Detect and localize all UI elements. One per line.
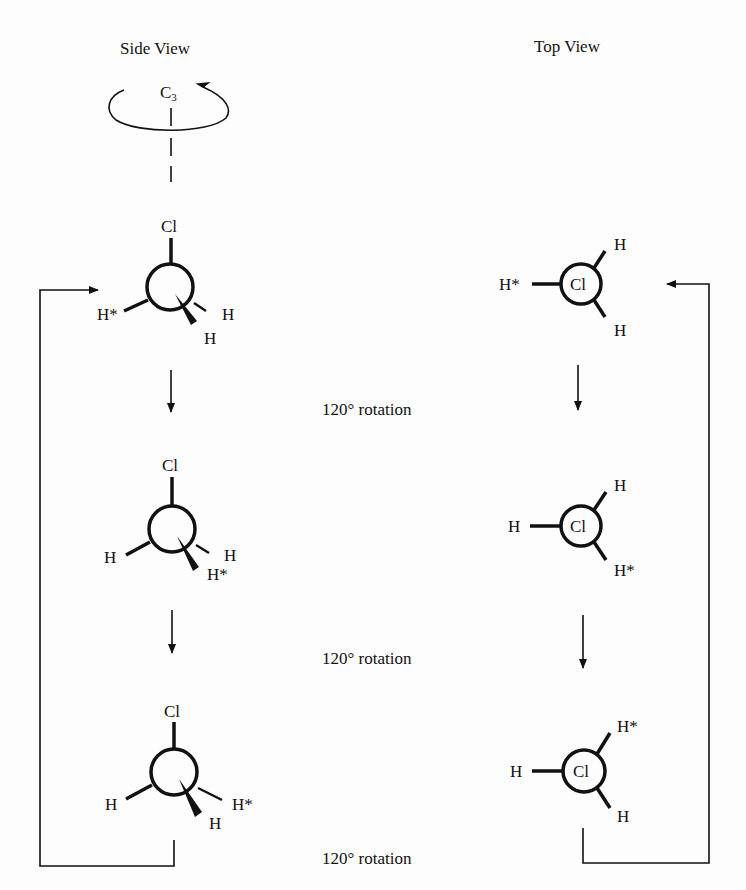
diagram-graphics [0, 0, 746, 890]
sv1-cl-label: Cl [161, 218, 177, 235]
sv3-bottom-label: H [209, 815, 221, 832]
tv2-center-label: Cl [570, 518, 586, 535]
side-view-heading: Side View [120, 40, 190, 57]
c3-axis-label: C3 [160, 84, 177, 103]
tv3-left-label: H [510, 763, 522, 780]
c3-rotation-diagram: Side View Top View C3 Cl H* H H Cl H H H… [0, 0, 746, 890]
sv2-bottom-label: H* [207, 566, 228, 583]
rotation-label-1: 120° rotation [322, 401, 411, 418]
c3-axis-letter: C [160, 83, 171, 102]
side-view-molecule-1 [124, 238, 206, 325]
top-view-molecule-1 [532, 251, 605, 317]
right-return-arrow-icon [583, 284, 709, 863]
sv3-left-label: H [105, 796, 117, 813]
tv1-lower-right-label: H [614, 322, 626, 339]
sv1-bottom-label: H [204, 330, 216, 347]
tv3-upper-right-label: H* [617, 718, 638, 735]
sv2-right-label: H [224, 547, 236, 564]
tv2-lower-right-label: H* [614, 562, 635, 579]
tv1-center-label: Cl [570, 276, 586, 293]
tv2-left-label: H [508, 518, 520, 535]
tv3-center-label: Cl [573, 763, 589, 780]
tv3-lower-right-label: H [617, 808, 629, 825]
sv3-right-label: H* [232, 796, 253, 813]
rotation-label-3: 120° rotation [322, 850, 411, 867]
top-view-heading: Top View [534, 38, 600, 55]
side-arrows [171, 370, 172, 653]
sv1-left-label: H* [97, 306, 118, 323]
top-view-molecule-2 [530, 492, 606, 560]
tv1-upper-right-label: H [614, 236, 626, 253]
rotation-label-2: 120° rotation [322, 650, 411, 667]
sv1-right-label: H [222, 306, 234, 323]
sv3-cl-label: Cl [164, 703, 180, 720]
sv2-left-label: H [104, 549, 116, 566]
side-view-molecule-2 [126, 477, 209, 571]
sv2-cl-label: Cl [162, 457, 178, 474]
side-view-molecule-3 [126, 722, 222, 817]
tv2-upper-right-label: H [614, 477, 626, 494]
c3-axis-subscript: 3 [171, 91, 177, 103]
top-view-molecule-3 [532, 733, 610, 808]
tv1-left-label: H* [499, 276, 520, 293]
